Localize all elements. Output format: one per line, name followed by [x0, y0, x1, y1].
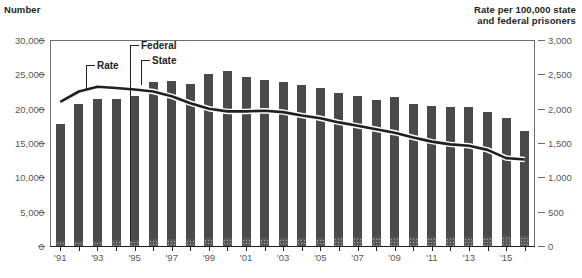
x-tick-mark [506, 247, 507, 251]
x-tick-label: '97 [166, 252, 178, 263]
y2-tick-mark [538, 74, 545, 75]
y2-tick-mark [538, 177, 545, 178]
x-tick-mark [469, 247, 470, 251]
right-axis-ticks: 05001,0001,5002,0002,5003,000 [538, 0, 582, 278]
x-tick-mark [395, 247, 396, 251]
y2-tick-mark [538, 246, 545, 247]
y2-tick-label: 500 [548, 206, 564, 217]
x-tick-mark [79, 247, 80, 251]
x-tick-mark [358, 247, 359, 251]
plot-baseline [50, 246, 535, 247]
x-tick-mark [246, 247, 247, 251]
callout-leader-rate-vertical [86, 65, 87, 90]
y2-tick-mark [538, 109, 545, 110]
y-tick-label: 10,000 [8, 172, 44, 183]
x-tick-mark [172, 247, 173, 251]
left-axis-ticks: 05,00010,00015,00020,00025,00030,000 [0, 0, 44, 278]
x-tick-mark [265, 247, 266, 251]
y2-tick-label: 1,000 [548, 172, 572, 183]
x-tick-label: '95 [128, 252, 140, 263]
x-tick-mark [190, 247, 191, 251]
y-tick-label: 5,000 [8, 206, 44, 217]
callout-label-state: State [152, 55, 176, 66]
x-tick-mark [153, 247, 154, 251]
y2-tick-label: 0 [548, 241, 553, 252]
x-tick-label: '11 [426, 252, 438, 263]
x-tick-mark [227, 247, 228, 251]
x-tick-label: '13 [463, 252, 475, 263]
x-tick-mark [339, 247, 340, 251]
x-tick-mark [450, 247, 451, 251]
y-tick-label: 30,000 [8, 35, 44, 46]
callout-leader-federal-horizontal [130, 45, 139, 46]
x-tick-label: '03 [277, 252, 289, 263]
x-tick-label: '91 [54, 252, 66, 263]
x-tick-mark [97, 247, 98, 251]
x-tick-label: '09 [388, 252, 400, 263]
x-tick-mark [432, 247, 433, 251]
x-tick-mark [209, 247, 210, 251]
y2-tick-label: 1,500 [548, 138, 572, 149]
x-tick-mark [116, 247, 117, 251]
callout-leader-state-horizontal [141, 60, 150, 61]
callout-leader-federal-vertical [130, 45, 131, 241]
y-tick-label: 20,000 [8, 103, 44, 114]
x-tick-mark [302, 247, 303, 251]
x-tick-label: '15 [500, 252, 512, 263]
x-tick-mark [488, 247, 489, 251]
callout-label-federal: Federal [141, 40, 177, 51]
callout-label-rate: Rate [97, 60, 119, 71]
rate-line-series [51, 40, 534, 246]
y-tick-label: 25,000 [8, 69, 44, 80]
x-tick-mark [135, 247, 136, 251]
x-tick-mark [376, 247, 377, 251]
y2-tick-label: 3,000 [548, 35, 572, 46]
x-tick-label: '01 [240, 252, 252, 263]
x-tick-mark [525, 247, 526, 251]
callout-leader-state-vertical [141, 60, 142, 85]
x-tick-label: '93 [91, 252, 103, 263]
x-tick-label: '99 [203, 252, 215, 263]
y2-tick-label: 2,500 [548, 69, 572, 80]
x-tick-mark [320, 247, 321, 251]
chart-canvas: Number Rate per 100,000 state and federa… [0, 0, 582, 278]
x-tick-label: '05 [314, 252, 326, 263]
y2-tick-mark [538, 40, 545, 41]
plot-area [51, 40, 534, 246]
x-tick-label: '07 [351, 252, 363, 263]
x-tick-mark [283, 247, 284, 251]
y2-tick-mark [538, 212, 545, 213]
callout-leader-rate-horizontal [86, 65, 95, 66]
x-tick-mark [413, 247, 414, 251]
y-tick-label: 15,000 [8, 138, 44, 149]
x-tick-mark [60, 247, 61, 251]
y2-tick-label: 2,000 [548, 103, 572, 114]
plot-right-border [534, 40, 535, 247]
y-tick-label: 0 [8, 241, 44, 252]
y2-tick-mark [538, 143, 545, 144]
